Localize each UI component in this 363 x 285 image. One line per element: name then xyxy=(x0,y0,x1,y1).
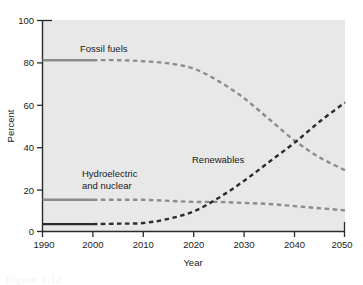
series-label-hydro-line2: and nuclear xyxy=(82,180,132,191)
x-tick-label-2000: 2000 xyxy=(82,239,103,250)
y-tick-label-0: 0 xyxy=(29,226,34,237)
x-tick-label-2010: 2010 xyxy=(133,239,154,250)
y-tick-label-100: 100 xyxy=(18,15,34,26)
y-tick-label-80: 80 xyxy=(23,57,34,68)
x-axis-tick-labels: 1990 2000 2010 2020 2030 2040 2050 xyxy=(33,239,352,250)
x-tick-label-2040: 2040 xyxy=(284,239,305,250)
y-axis-tick-labels: 100 80 60 40 20 0 xyxy=(18,15,34,237)
x-tick-label-2020: 2020 xyxy=(183,239,204,250)
x-tick-label-2050: 2050 xyxy=(331,239,352,250)
y-axis-title: Percent xyxy=(5,109,16,142)
y-tick-label-40: 40 xyxy=(23,142,34,153)
y-tick-label-20: 20 xyxy=(23,185,34,196)
x-tick-label-1990: 1990 xyxy=(33,239,54,250)
series-label-fossil-fuels: Fossil fuels xyxy=(80,43,128,54)
y-tick-label-60: 60 xyxy=(23,100,34,111)
x-axis-ticks xyxy=(43,232,345,237)
series-label-hydro-line1: Hydroelectric xyxy=(82,168,138,179)
x-axis-title: Year xyxy=(183,257,202,268)
x-tick-label-2030: 2030 xyxy=(234,239,255,250)
y-axis-ticks xyxy=(37,21,42,232)
figure-caption-partial: Figure 1.12 xyxy=(6,273,62,285)
series-label-renewables: Renewables xyxy=(192,154,245,165)
